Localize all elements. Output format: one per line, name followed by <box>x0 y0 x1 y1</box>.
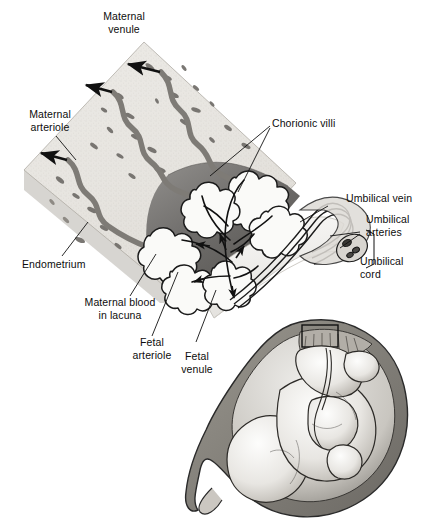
label-umbilical-arteries: Umbilical arteries <box>366 213 410 238</box>
label-maternal-blood-in-lacuna: Maternal blood in lacuna <box>68 296 172 321</box>
label-maternal-venule: Maternal venule <box>84 10 164 35</box>
label-umbilical-vein: Umbilical vein <box>346 192 412 205</box>
label-umbilical-cord: Umbilical cord <box>360 255 404 280</box>
placenta-illustration: Maternal venule Maternal arteriole Endom… <box>0 0 431 532</box>
label-endometrium: Endometrium <box>22 258 86 271</box>
label-maternal-arteriole: Maternal arteriole <box>8 108 92 133</box>
label-fetal-venule: Fetal venule <box>170 350 224 375</box>
label-chorionic-villi: Chorionic villi <box>272 117 335 130</box>
